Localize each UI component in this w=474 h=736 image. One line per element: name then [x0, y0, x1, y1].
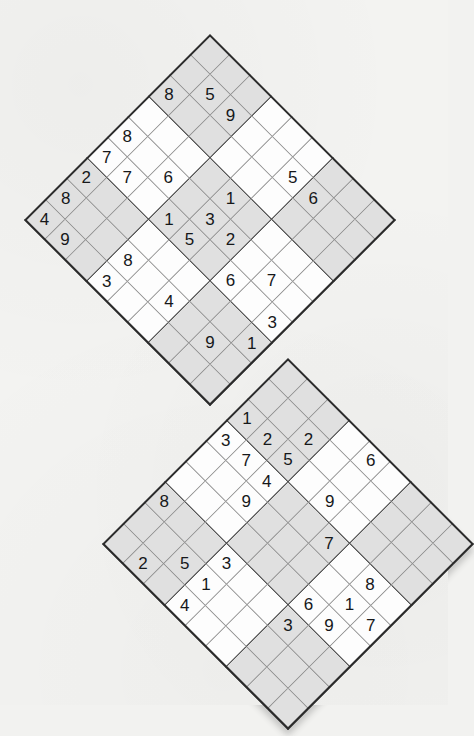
- sudoku-given-digit: 2: [226, 231, 235, 248]
- sudoku-given-digit: 4: [164, 293, 173, 310]
- sudoku-given-digit: 6: [164, 169, 173, 186]
- sudoku-given-digit: 3: [102, 272, 111, 289]
- sudoku-given-digit: 3: [221, 431, 230, 448]
- sudoku-given-digit: 7: [242, 452, 251, 469]
- lower-grid-cells: 62125937478917698335124: [102, 358, 474, 730]
- sudoku-given-digit: 3: [221, 555, 230, 572]
- sudoku-given-digit: 3: [205, 211, 214, 228]
- sudoku-given-digit: 9: [325, 493, 334, 510]
- sudoku-given-digit: 5: [180, 555, 189, 572]
- sudoku-given-digit: 9: [242, 493, 251, 510]
- sudoku-given-digit: 4: [180, 596, 189, 613]
- sudoku-given-digit: 6: [304, 596, 313, 613]
- sudoku-given-digit: 3: [283, 617, 292, 634]
- sudoku-given-digit: 5: [205, 87, 214, 104]
- sudoku-given-digit: 2: [304, 431, 313, 448]
- upper-grid: 59568186327771563218849493: [24, 34, 396, 406]
- sudoku-given-digit: 8: [61, 190, 70, 207]
- sudoku-given-digit: 6: [366, 452, 375, 469]
- sudoku-given-digit: 9: [226, 107, 235, 124]
- sudoku-given-digit: 8: [159, 493, 168, 510]
- sudoku-given-digit: 7: [102, 149, 111, 166]
- lower-grid: 62125937478917698335124: [102, 358, 474, 730]
- sudoku-given-digit: 1: [201, 576, 210, 593]
- sudoku-given-digit: 7: [325, 535, 334, 552]
- sudoku-given-digit: 1: [247, 334, 256, 351]
- sudoku-given-digit: 1: [164, 211, 173, 228]
- sudoku-given-digit: 6: [308, 190, 317, 207]
- sudoku-given-digit: 1: [345, 596, 354, 613]
- sudoku-given-digit: 8: [164, 87, 173, 104]
- sudoku-given-digit: 6: [226, 272, 235, 289]
- sudoku-given-digit: 8: [366, 576, 375, 593]
- sudoku-given-digit: 2: [263, 431, 272, 448]
- sudoku-given-digit: 7: [366, 617, 375, 634]
- sudoku-given-digit: 1: [242, 411, 251, 428]
- sudoku-given-digit: 7: [123, 169, 132, 186]
- sudoku-given-digit: 2: [139, 555, 148, 572]
- sudoku-given-digit: 8: [123, 128, 132, 145]
- sudoku-given-digit: 2: [81, 169, 90, 186]
- sudoku-given-digit: 4: [263, 473, 272, 490]
- sudoku-given-digit: 5: [283, 452, 292, 469]
- sudoku-given-digit: 5: [288, 169, 297, 186]
- sudoku-given-digit: 9: [61, 231, 70, 248]
- sudoku-given-digit: 3: [267, 314, 276, 331]
- sudoku-given-digit: 7: [267, 272, 276, 289]
- sudoku-given-digit: 4: [40, 211, 49, 228]
- sudoku-given-digit: 9: [205, 334, 214, 351]
- sudoku-given-digit: 9: [325, 617, 334, 634]
- sudoku-given-digit: 1: [226, 190, 235, 207]
- sudoku-given-digit: 8: [123, 252, 132, 269]
- upper-grid-cells: 59568186327771563218849493: [24, 34, 396, 406]
- sudoku-given-digit: 5: [185, 231, 194, 248]
